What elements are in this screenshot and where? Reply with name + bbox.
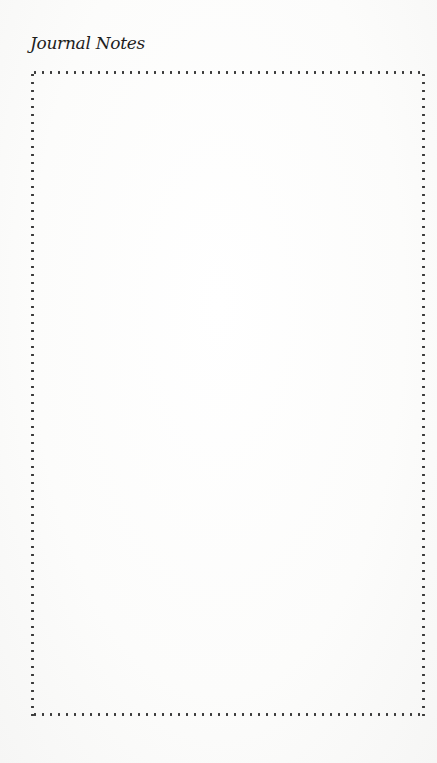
dotted-border-right bbox=[422, 71, 425, 716]
dotted-border-left bbox=[31, 71, 34, 716]
notes-writing-area[interactable] bbox=[37, 77, 419, 710]
notes-box[interactable] bbox=[31, 71, 425, 716]
dotted-border-bottom bbox=[31, 713, 425, 716]
dotted-border-top bbox=[31, 71, 425, 74]
page-title: Journal Notes bbox=[30, 33, 145, 53]
journal-page: Journal Notes bbox=[0, 0, 437, 763]
